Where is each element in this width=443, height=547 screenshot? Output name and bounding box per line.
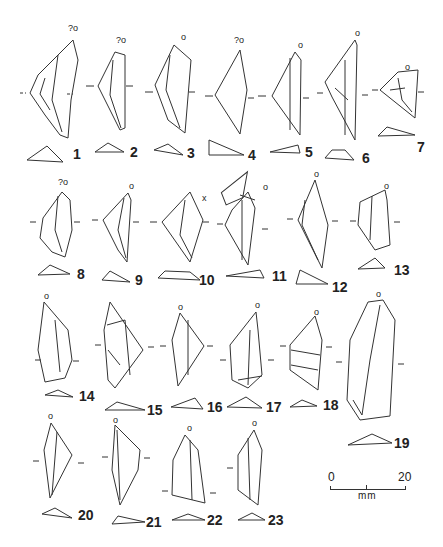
- orientation-marker-2: ?o: [116, 36, 126, 45]
- artifact-label-1: 1: [73, 147, 81, 161]
- artifact-label-6: 6: [362, 151, 370, 165]
- orientation-marker-4: ?o: [234, 36, 244, 45]
- scale-unit: mm: [358, 490, 377, 501]
- artifact-19: [336, 300, 404, 445]
- artifact-plate: [0, 0, 443, 547]
- artifact-20: [33, 423, 84, 518]
- orientation-marker-1: ?o: [68, 24, 78, 33]
- orientation-marker-17: o: [255, 301, 260, 310]
- scale-tick: [366, 485, 367, 489]
- artifact-3: [145, 45, 195, 155]
- artifact-label-9: 9: [135, 273, 143, 287]
- artifact-9: [92, 193, 139, 282]
- orientation-marker-8: ?o: [58, 178, 68, 187]
- scale-end: 20: [398, 470, 411, 484]
- orientation-marker-10: x: [202, 194, 207, 203]
- artifact-label-5: 5: [305, 145, 313, 159]
- orientation-marker-19: o: [376, 290, 381, 299]
- orientation-marker-13: o: [384, 182, 389, 191]
- artifact-label-22: 22: [207, 513, 223, 527]
- artifact-label-15: 15: [147, 403, 163, 417]
- orientation-marker-18: o: [314, 308, 319, 317]
- artifact-label-23: 23: [268, 513, 284, 527]
- artifact-4: [205, 50, 254, 155]
- orientation-marker-21: o: [113, 416, 118, 425]
- orientation-marker-16: o: [178, 303, 183, 312]
- artifact-1: [20, 40, 78, 162]
- artifact-18: [280, 316, 332, 407]
- orientation-marker-7: o: [405, 63, 410, 72]
- artifact-label-10: 10: [199, 273, 215, 287]
- artifact-16: [160, 313, 213, 409]
- artifact-label-21: 21: [146, 515, 162, 529]
- orientation-marker-9: o: [129, 182, 134, 191]
- artifact-label-8: 8: [77, 267, 85, 281]
- artifact-label-19: 19: [394, 436, 410, 450]
- artifact-label-3: 3: [187, 146, 195, 160]
- artifact-label-7: 7: [417, 140, 425, 154]
- artifact-artifact-11b: [217, 172, 257, 207]
- artifact-label-14: 14: [79, 389, 95, 403]
- orientation-marker-12: o: [314, 170, 319, 179]
- artifact-17: [220, 312, 274, 408]
- artifact-label-20: 20: [78, 508, 94, 522]
- orientation-marker-3: o: [181, 33, 186, 42]
- artifact-14: [35, 302, 79, 397]
- orientation-marker-6: o: [355, 29, 360, 38]
- artifact-23: [227, 430, 265, 520]
- scale-start: 0: [328, 470, 335, 484]
- artifact-8: [30, 192, 80, 275]
- artifact-label-2: 2: [130, 145, 138, 159]
- orientation-marker-14: o: [44, 292, 49, 301]
- artifact-11: [217, 192, 268, 278]
- artifact-6: [317, 40, 368, 160]
- artifact-label-12: 12: [332, 280, 348, 294]
- artifact-22: [162, 435, 216, 520]
- orientation-marker-20: o: [48, 412, 53, 421]
- orientation-marker-11: o: [263, 183, 268, 192]
- artifact-13: [350, 190, 400, 269]
- artifact-5: [258, 52, 309, 153]
- artifact-label-16: 16: [207, 400, 223, 414]
- artifact-label-18: 18: [323, 398, 339, 412]
- artifact-label-11: 11: [272, 269, 287, 283]
- artifact-label-4: 4: [248, 148, 256, 162]
- artifact-2: [86, 52, 133, 152]
- artifact-10: [150, 192, 209, 280]
- artifact-7: [372, 70, 424, 136]
- artifact-label-17: 17: [266, 400, 282, 414]
- orientation-marker-22: o: [187, 424, 192, 433]
- artifact-label-13: 13: [394, 263, 410, 277]
- scale-bar: 0 20 mm: [328, 470, 428, 500]
- orientation-marker-23: o: [252, 419, 257, 428]
- artifact-15: [95, 302, 154, 410]
- artifact-21: [102, 425, 150, 524]
- orientation-marker-5: o: [298, 41, 303, 50]
- artifact-12: [287, 180, 338, 284]
